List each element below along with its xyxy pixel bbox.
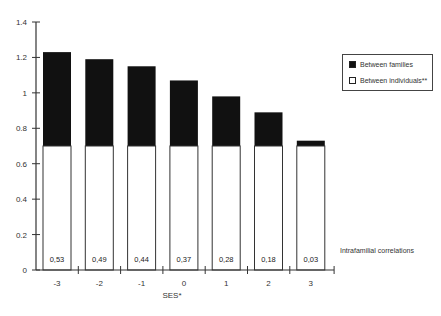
y-tick-label: 1.2 bbox=[16, 53, 28, 62]
bar-ses--3: 0,53 bbox=[43, 52, 71, 270]
y-tick-label: 0.4 bbox=[16, 195, 28, 204]
bar-segment-between-families bbox=[128, 66, 156, 146]
legend-label: Between individuals** bbox=[360, 77, 427, 84]
x-axis-title: SES* bbox=[162, 291, 181, 300]
intrafamilial-correlations-label: Intrafamilial correlations bbox=[340, 247, 414, 254]
bar-segment-between-families bbox=[43, 52, 71, 146]
y-tick-label: 1 bbox=[23, 89, 28, 98]
legend-item-between-families: Between families bbox=[349, 61, 413, 68]
stacked-bar-chart: 00.20.40.60.811.21.4 0,530,490,440,370,2… bbox=[0, 0, 441, 316]
x-tick-label: -1 bbox=[138, 279, 146, 288]
y-tick-label: 0.6 bbox=[16, 160, 28, 169]
legend-label: Between families bbox=[360, 61, 413, 68]
bar-segment-between-individuals bbox=[128, 146, 156, 270]
y-tick-label: 0.2 bbox=[16, 231, 28, 240]
bar-ses-3: 0,03 bbox=[297, 141, 325, 270]
intrafamilial-correlation-value: 0,37 bbox=[177, 255, 192, 264]
bar-segment-between-individuals bbox=[255, 146, 283, 270]
x-tick-label: -3 bbox=[53, 279, 61, 288]
bar-segment-between-families bbox=[85, 59, 113, 146]
intrafamilial-correlation-value: 0,44 bbox=[134, 255, 149, 264]
bar-segment-between-families bbox=[255, 112, 283, 146]
legend-swatch-black bbox=[349, 61, 356, 68]
legend-swatch-white bbox=[349, 77, 356, 84]
intrafamilial-correlation-value: 0,53 bbox=[50, 255, 65, 264]
bar-ses-0: 0,37 bbox=[170, 80, 198, 270]
bar-ses--2: 0,49 bbox=[85, 59, 113, 270]
bar-segment-between-families bbox=[170, 80, 198, 146]
bar-segment-between-individuals bbox=[43, 146, 71, 270]
bar-ses-2: 0,18 bbox=[255, 112, 283, 270]
intrafamilial-correlation-value: 0,49 bbox=[92, 255, 107, 264]
bar-segment-between-individuals bbox=[170, 146, 198, 270]
intrafamilial-correlation-value: 0,28 bbox=[219, 255, 234, 264]
bar-segment-between-individuals bbox=[297, 146, 325, 270]
bars: 0,530,490,440,370,280,180,03 bbox=[43, 52, 325, 270]
x-tick-label: 2 bbox=[266, 279, 271, 288]
x-tick-label: 1 bbox=[224, 279, 229, 288]
y-tick-label: 1.4 bbox=[16, 18, 28, 27]
x-tick-label: 0 bbox=[182, 279, 187, 288]
x-tick-label: 3 bbox=[309, 279, 314, 288]
intrafamilial-correlation-value: 0,03 bbox=[303, 255, 318, 264]
bar-segment-between-families bbox=[297, 141, 325, 146]
legend-item-between-individuals: Between individuals** bbox=[349, 77, 427, 84]
bar-ses-1: 0,28 bbox=[212, 96, 240, 270]
y-tick-label: 0 bbox=[23, 266, 28, 275]
bar-segment-between-families bbox=[212, 96, 240, 146]
y-tick-label: 0.8 bbox=[16, 124, 28, 133]
x-tick-label: -2 bbox=[96, 279, 104, 288]
legend: Between families Between individuals** bbox=[342, 54, 433, 91]
bar-ses--1: 0,44 bbox=[128, 66, 156, 270]
bar-segment-between-individuals bbox=[212, 146, 240, 270]
bar-segment-between-individuals bbox=[85, 146, 113, 270]
y-axis: 00.20.40.60.811.21.4 bbox=[16, 18, 40, 275]
intrafamilial-correlation-value: 0,18 bbox=[261, 255, 276, 264]
